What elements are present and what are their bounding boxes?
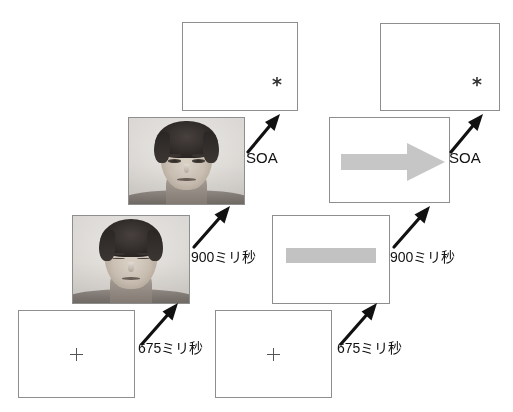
timing-label-soa-left: SOA — [246, 150, 278, 165]
grey-bar-cue — [286, 248, 376, 263]
face-cue-screen-eyes-open — [128, 117, 245, 205]
step-arrow-900ms-right — [390, 203, 438, 251]
timing-label-900ms-left: 900ミリ秒 — [191, 250, 256, 264]
face-shading — [129, 118, 244, 204]
figure-canvas: * * — [0, 0, 513, 412]
timing-label-675ms-right: 675ミリ秒 — [337, 341, 402, 355]
face-shading — [73, 216, 189, 303]
arrow-cue-screen — [329, 117, 450, 203]
target-screen-left: * — [182, 22, 298, 111]
timing-label-soa-right: SOA — [449, 150, 481, 165]
timing-label-675ms-left: 675ミリ秒 — [138, 341, 203, 355]
step-arrow-900ms-left — [190, 203, 238, 251]
fixation-screen-left — [18, 310, 135, 398]
target-screen-right: * — [380, 23, 500, 111]
timing-label-900ms-right: 900ミリ秒 — [390, 250, 455, 264]
fixation-cross-left — [70, 348, 83, 361]
fixation-cross-right — [267, 348, 280, 361]
face-cue-screen-eyes-closed — [72, 215, 190, 304]
fixation-screen-right — [215, 310, 332, 398]
grey-right-arrow-icon — [341, 142, 446, 182]
asterisk-target-right: * — [472, 75, 482, 94]
asterisk-target-left: * — [272, 75, 282, 94]
grey-bar-screen — [272, 215, 390, 304]
